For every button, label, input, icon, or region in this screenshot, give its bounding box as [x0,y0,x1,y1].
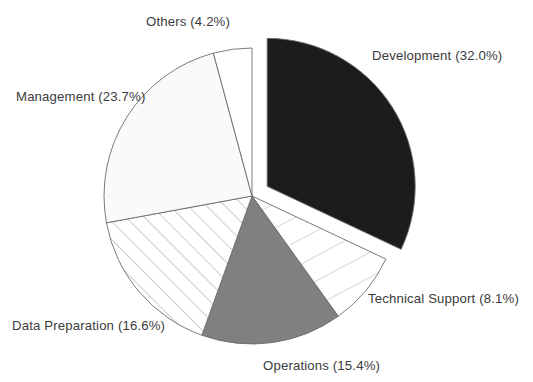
pie-chart-figure: Development (32.0%)Technical Support (8.… [0,0,533,382]
pie-label-development: Development (32.0%) [372,48,502,63]
pie-chart-canvas: Development (32.0%)Technical Support (8.… [0,0,533,382]
pie-label-technical-support: Technical Support (8.1%) [368,291,519,306]
figure-caption-strip [0,372,533,382]
pie-label-data-preparation: Data Preparation (16.6%) [12,318,165,333]
pie-label-others: Others (4.2%) [146,14,230,29]
pie-label-management: Management (23.7%) [16,89,146,104]
